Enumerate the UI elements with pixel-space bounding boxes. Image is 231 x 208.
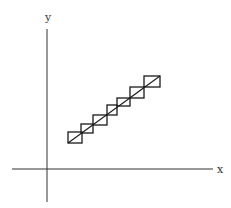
x-axis-label: x <box>217 163 224 176</box>
staircase-diagram: x y <box>0 0 231 208</box>
y-axis-label: y <box>44 11 52 24</box>
diagonal-line <box>68 76 160 143</box>
diagonal-line-group <box>68 76 160 143</box>
